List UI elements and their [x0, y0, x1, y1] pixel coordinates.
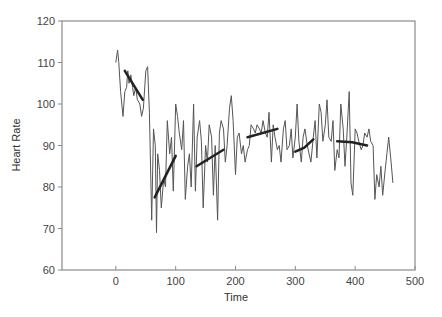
- trend-segments: [125, 71, 367, 198]
- trend-segment: [197, 150, 224, 167]
- trend-segment: [295, 139, 313, 151]
- trend-segment: [337, 141, 367, 145]
- y-tick-label: 80: [43, 181, 55, 193]
- x-tick-label: 200: [226, 275, 244, 287]
- x-tick-label: 100: [166, 275, 184, 287]
- y-tick-label: 90: [43, 140, 55, 152]
- y-tick-label: 70: [43, 223, 55, 235]
- y-axis-label: Heart Rate: [10, 118, 22, 171]
- x-tick-label: 400: [346, 275, 364, 287]
- x-tick-label: 0: [113, 275, 119, 287]
- x-tick-label: 300: [286, 275, 304, 287]
- y-tick-label: 60: [43, 264, 55, 276]
- axes: 607080901001101200100200300400500: [37, 15, 425, 287]
- y-tick-label: 100: [37, 98, 55, 110]
- heart-rate-chart: 607080901001101200100200300400500 Time H…: [0, 0, 442, 317]
- x-axis-label: Time: [224, 291, 248, 303]
- x-tick-label: 500: [406, 275, 424, 287]
- y-tick-label: 110: [37, 57, 55, 69]
- y-tick-label: 120: [37, 15, 55, 27]
